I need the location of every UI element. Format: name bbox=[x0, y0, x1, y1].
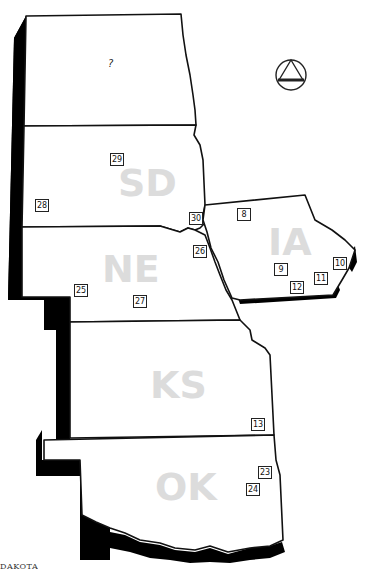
site-marker[interactable]: 10 bbox=[333, 257, 347, 270]
site-marker[interactable]: 27 bbox=[133, 295, 147, 308]
north-dakota-unknown-label: ? bbox=[108, 58, 113, 69]
regional-map: SD NE IA KS OK bbox=[0, 0, 368, 570]
site-marker[interactable]: 29 bbox=[110, 153, 124, 166]
state-label-ks: KS bbox=[150, 363, 207, 407]
site-marker[interactable]: 28 bbox=[35, 199, 49, 212]
triangle-in-circle-icon bbox=[276, 60, 306, 90]
state-label-ne: NE bbox=[102, 247, 160, 291]
site-marker[interactable]: 9 bbox=[274, 263, 288, 276]
site-marker[interactable]: 24 bbox=[246, 483, 260, 496]
state-north-dakota bbox=[24, 14, 196, 126]
site-marker[interactable]: 25 bbox=[74, 284, 88, 297]
site-marker[interactable]: 23 bbox=[258, 466, 272, 479]
site-marker[interactable]: 8 bbox=[237, 208, 251, 221]
site-marker[interactable]: 26 bbox=[193, 245, 207, 258]
site-marker[interactable]: 30 bbox=[189, 212, 203, 225]
site-marker[interactable]: 11 bbox=[314, 272, 328, 285]
state-label-sd: SD bbox=[118, 161, 177, 205]
state-label-ia: IA bbox=[268, 220, 312, 264]
state-label-ok: OK bbox=[155, 465, 218, 509]
site-marker[interactable]: 13 bbox=[251, 418, 265, 431]
state-south-dakota bbox=[22, 125, 206, 232]
map-caption: DAKOTA bbox=[0, 562, 38, 570]
site-marker[interactable]: 12 bbox=[290, 281, 304, 294]
